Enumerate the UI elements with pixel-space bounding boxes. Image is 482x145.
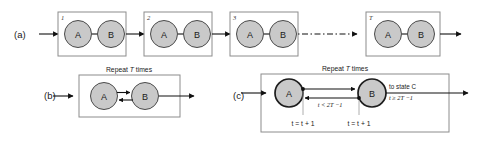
panel-a: (a) 1 A B 2 A B 3 [14,12,461,56]
panel-c-caption-suffix: times [350,65,369,72]
panel-a-box-1: 1 A B [58,12,126,56]
state-node-b-label: B [280,30,286,40]
diagram-svg: (a) 1 A B 2 A B 3 [0,0,482,145]
state-node-a-label: A [161,30,167,40]
figure-canvas: (a) 1 A B 2 A B 3 [0,0,482,145]
edge-back-condition-label: t < 2T −1 [318,101,343,108]
state-node-a-label: A [286,89,292,99]
panel-a-box-3: 3 A B [230,12,298,56]
stage-box-number: 3 [232,14,237,21]
counter-label-right: t = t + 1 [347,120,370,127]
exit-label-condition: t ≥ 2T −1 [389,94,413,101]
panel-a-box-2: 2 A B [144,12,212,56]
state-node-b-label: B [108,30,114,40]
counter-label-left: t = t + 1 [291,120,314,127]
panel-b-caption-prefix: Repeat [106,66,130,74]
panel-a-label: (a) [14,29,26,40]
state-node-a-label: A [75,30,81,40]
edge-b-to-a-origin-dot [357,96,361,100]
panel-b: (b) Repeat T times A B [44,66,194,117]
panel-c-caption-prefix: Repeat [322,65,346,73]
stage-box-number: T [369,14,373,21]
stage-box-number: 2 [147,14,151,21]
stage-box-number: 1 [61,14,64,21]
panel-b-caption-suffix: times [134,66,153,73]
panel-c-caption: Repeat T times [322,65,369,73]
state-node-a-label: A [385,30,391,40]
state-node-a-label: A [101,92,107,102]
exit-label-to-state-c: to state C [389,83,416,90]
panel-a-box-t: T A B [366,12,440,56]
panel-c-label: (c) [233,90,244,101]
state-node-b-label: B [194,30,200,40]
state-node-b-label: B [418,30,424,40]
edge-a-to-b-origin-dot [301,87,305,91]
panel-c: (c) Repeat T times A B t < 2T −1 t = t +… [233,65,468,132]
state-node-b-label: B [369,89,375,99]
panel-b-caption: Repeat T times [106,66,153,74]
state-node-a-label: A [247,30,253,40]
state-node-b-label: B [142,92,148,102]
